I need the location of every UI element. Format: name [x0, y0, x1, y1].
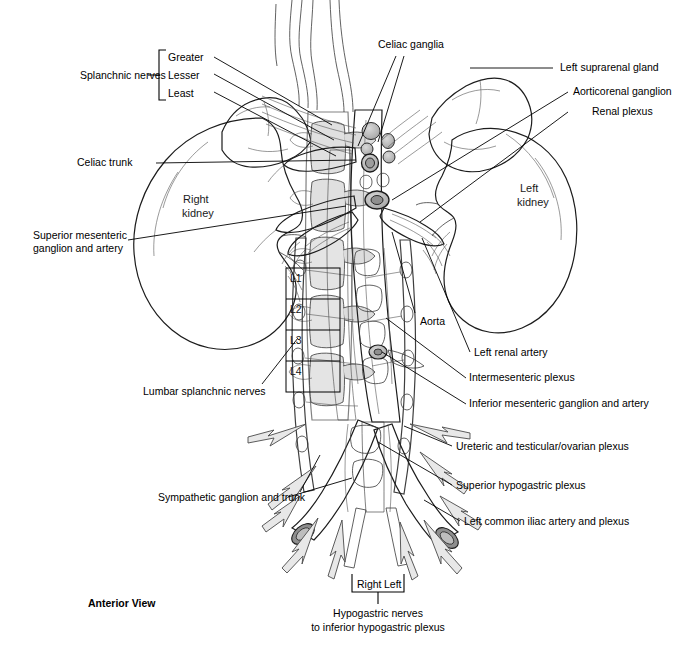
label-left-kidney-line1: Left: [520, 182, 538, 194]
label-hypogastric-nerves-line2: to inferior hypogastric plexus: [311, 621, 445, 633]
label-lumbar-splanchnic-nerves: Lumbar splanchnic nerves: [143, 385, 266, 397]
label-l1: L1: [290, 272, 302, 284]
label-superior-mesenteric-ganglion-l1: Superior mesenteric: [33, 229, 127, 241]
label-l4: L4: [290, 365, 302, 377]
right-kidney-shape: [134, 118, 306, 349]
anatomy-figure-page: Splanchnic nerves Greater Lesser Least C…: [0, 0, 684, 665]
label-hypogastric-nerves-line1: Hypogastric nerves: [333, 607, 423, 619]
label-right-kidney-line2: kidney: [182, 207, 214, 219]
label-renal-plexus: Renal plexus: [592, 105, 653, 117]
label-intermesenteric-plexus: Intermesenteric plexus: [469, 371, 575, 383]
caption-anterior-view: Anterior View: [88, 597, 156, 609]
label-celiac-ganglia: Celiac ganglia: [378, 38, 444, 50]
label-splanchnic-nerves: Splanchnic nerves: [80, 69, 166, 81]
left-renal-artery-shape: [380, 208, 450, 274]
label-aorta: Aorta: [420, 315, 445, 327]
label-aorticorenal-ganglion: Aorticorenal ganglion: [573, 85, 672, 97]
label-l3: L3: [290, 334, 302, 346]
label-left-suprarenal-gland: Left suprarenal gland: [560, 61, 659, 73]
label-ureteric-and-testicular-ovarian-plexus: Ureteric and testicular/ovarian plexus: [456, 440, 629, 452]
label-left: Left: [384, 578, 402, 590]
label-greater: Greater: [168, 51, 204, 63]
label-superior-mesenteric-ganglion-l2: ganglion and artery: [33, 242, 124, 254]
label-lesser: Lesser: [168, 69, 200, 81]
label-right-kidney-line1: Right: [183, 193, 209, 205]
label-right: Right: [357, 578, 382, 590]
right-suprarenal-gland: [222, 98, 311, 168]
label-l2: L2: [290, 303, 302, 315]
label-left-kidney-line2: kidney: [517, 196, 549, 208]
abdominal-autonomic-plexus-illustration: Splanchnic nerves Greater Lesser Least C…: [0, 0, 684, 665]
hypogastric-nerves-shapes: [344, 508, 408, 568]
label-left-common-iliac-artery-and-plexus: Left common iliac artery and plexus: [464, 515, 629, 527]
label-left-renal-artery: Left renal artery: [474, 346, 548, 358]
label-superior-hypogastric-plexus: Superior hypogastric plexus: [456, 479, 586, 491]
left-suprarenal-gland-shape: [429, 78, 532, 172]
label-sympathetic-ganglion-and-trunk: Sympathetic ganglion and trunk: [158, 491, 306, 503]
label-inferior-mesenteric-ganglion-and-artery: Inferior mesenteric ganglion and artery: [469, 397, 650, 409]
label-least: Least: [168, 87, 194, 99]
label-celiac-trunk: Celiac trunk: [77, 156, 133, 168]
upper-vessels: [275, 0, 353, 112]
splanchnic-nerve-strands: [262, 96, 442, 164]
